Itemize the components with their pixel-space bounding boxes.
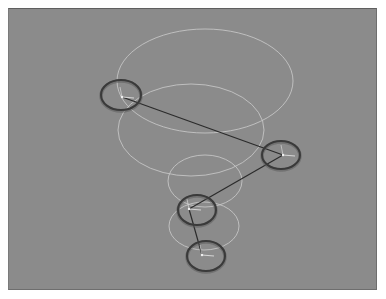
joint-4-control[interactable]: [187, 241, 225, 272]
bone-chain: [122, 97, 283, 255]
joint-ring-icon[interactable]: [101, 80, 141, 110]
bone-line: [122, 97, 283, 155]
axis-y-icon: [281, 145, 283, 155]
pivot-point-icon: [188, 208, 190, 210]
axis-x-icon: [283, 155, 295, 156]
rig-scene[interactable]: [0, 0, 386, 299]
guide-ellipse: [117, 29, 293, 133]
joint-3-control[interactable]: [178, 195, 216, 226]
pivot-point-icon: [121, 96, 123, 98]
axis-x-icon: [202, 255, 214, 256]
axis-x-icon: [189, 209, 201, 210]
joint-ring-icon[interactable]: [187, 241, 225, 271]
pivot-point-icon: [282, 154, 284, 156]
swing-range-guides: [117, 29, 293, 250]
bone-line: [189, 155, 283, 209]
pivot-point-icon: [201, 254, 203, 256]
